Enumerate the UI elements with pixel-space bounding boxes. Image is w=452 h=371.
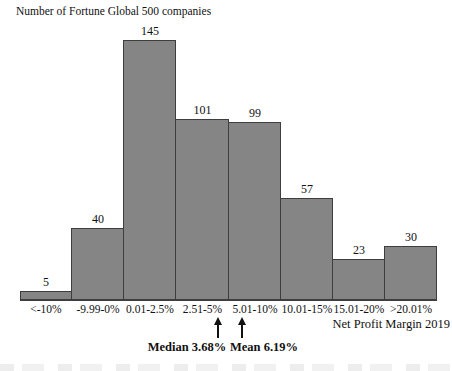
mean-arrow-icon <box>237 317 247 338</box>
bar-value-label: 40 <box>92 212 104 226</box>
bar <box>20 291 72 300</box>
bar-value-label: 30 <box>405 230 417 244</box>
mean-annotation: Mean 6.19% <box>230 340 298 355</box>
bar <box>175 119 229 300</box>
x-axis-tick-label: <-10% <box>30 302 61 316</box>
bar-value-label: 23 <box>353 243 365 257</box>
x-axis-tick-label: 0.01-2.5% <box>126 302 174 316</box>
median-annotation: Median 3.68% <box>148 340 226 355</box>
x-axis-title: Net Profit Margin 2019 <box>333 317 450 332</box>
bar <box>123 40 176 300</box>
bar <box>332 259 385 300</box>
bar-value-label: 57 <box>301 182 313 196</box>
x-axis-tick-label: >20.01% <box>390 302 432 316</box>
x-axis-tick-label: 10.01-15% <box>282 302 333 316</box>
bar <box>280 198 333 300</box>
plot-area <box>20 0 437 301</box>
median-arrow-icon <box>213 317 223 338</box>
x-axis-tick-label: 5.01-10% <box>232 302 277 316</box>
chart-canvas: Number of Fortune Global 500 companies 5… <box>0 0 452 371</box>
bar <box>228 122 281 300</box>
cropped-caption-artifact <box>0 364 452 371</box>
bar-value-label: 5 <box>43 275 49 289</box>
bar-value-label: 145 <box>141 24 159 38</box>
bar-value-label: 99 <box>249 106 261 120</box>
bar <box>384 246 437 300</box>
arrow-stem <box>217 324 219 338</box>
arrow-stem <box>241 324 243 338</box>
x-axis-tick-label: -9.99-0% <box>76 302 119 316</box>
x-axis-tick-label: 2.51-5% <box>183 302 222 316</box>
x-axis-tick-label: 15.01-20% <box>334 302 385 316</box>
bar-value-label: 101 <box>194 103 212 117</box>
bar <box>71 228 124 300</box>
